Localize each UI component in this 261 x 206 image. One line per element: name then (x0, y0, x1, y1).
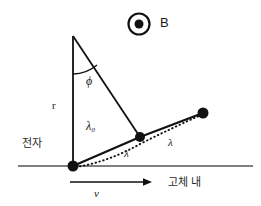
velocity-arrow-head-icon (143, 178, 152, 186)
electron-origin-dot (68, 161, 79, 172)
scatter-point-2-dot (198, 108, 209, 119)
scatter-point-1-dot (135, 132, 145, 142)
velocity-label: v (94, 188, 99, 199)
radius-label: r (52, 100, 56, 111)
lambda-second-label: λ (168, 137, 173, 148)
inside-solid-label: 고체 내 (168, 177, 202, 188)
physics-diagram (0, 0, 261, 206)
magnetic-field-label: B (160, 16, 169, 29)
diagonal-line (73, 36, 140, 137)
lambda-zero-label: λ₀ (86, 120, 95, 132)
lambda-first-label: λ (124, 148, 129, 159)
electron-label: 전자 (22, 138, 42, 149)
figure-canvas: B ϕ r λ₀ λ λ 전자 고체 내 v (0, 0, 261, 206)
angle-phi-label: ϕ (86, 75, 92, 87)
magnetic-field-dot-icon (135, 20, 144, 29)
